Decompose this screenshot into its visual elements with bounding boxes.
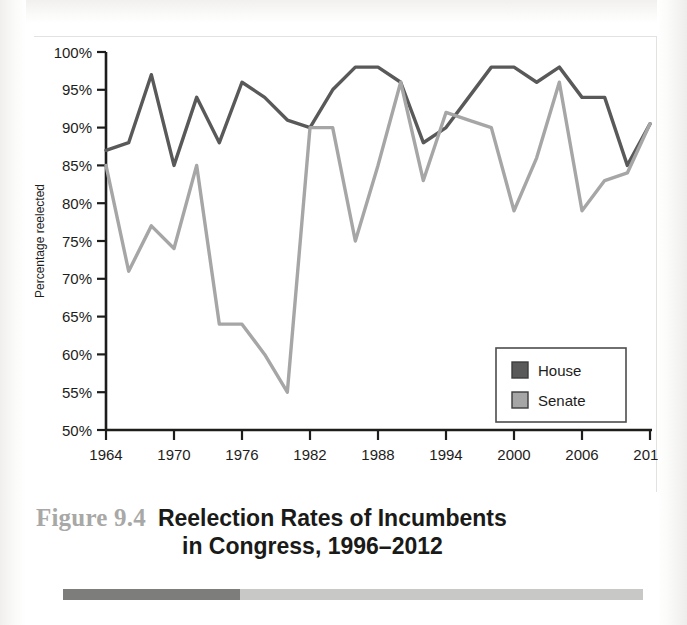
legend-label-senate[interactable]: Senate [538, 392, 586, 409]
y-axis-tick-label: 85% [62, 157, 92, 174]
accent-bar-light-segment [240, 589, 643, 600]
y-axis-title: Percentage reelected [33, 184, 47, 298]
y-axis-tick-label: 90% [62, 119, 92, 136]
page-scan-edge-left [0, 0, 26, 625]
x-axis-tick-label: 1970 [157, 446, 190, 463]
x-axis-tick-label: 2006 [565, 446, 598, 463]
figure-caption: Figure 9.4 Reelection Rates of Incumbent… [36, 504, 656, 560]
x-axis-tick-label: 2012 [633, 446, 658, 463]
page-scan-edge-right [657, 0, 687, 625]
y-axis-tick-label: 100% [54, 44, 92, 61]
series-line-house [106, 67, 650, 165]
decorative-accent-bar [63, 589, 643, 600]
legend-label-house[interactable]: House [538, 362, 581, 379]
caption-first-row: Figure 9.4 Reelection Rates of Incumbent… [36, 504, 656, 532]
page-scan-edge-top [0, 0, 687, 24]
x-axis-tick-label: 1964 [89, 446, 122, 463]
y-axis-tick-label: 55% [62, 384, 92, 401]
figure-container: 50%55%60%65%70%75%80%85%90%95%100% 19641… [0, 0, 687, 625]
x-axis-tick-label: 1976 [225, 446, 258, 463]
x-axis-tick-label: 1988 [361, 446, 394, 463]
figure-number-label: Figure 9.4 [36, 504, 146, 532]
x-axis-tick-label: 1994 [429, 446, 462, 463]
y-axis-tick-label: 80% [62, 195, 92, 212]
chart-svg: 50%55%60%65%70%75%80%85%90%95%100% 19641… [28, 30, 658, 492]
accent-bar-dark-segment [63, 589, 240, 600]
chart-legend[interactable]: HouseSenate [496, 348, 626, 422]
y-axis-tick-label: 65% [62, 308, 92, 325]
y-axis-tick-label: 70% [62, 270, 92, 287]
figure-title-line-2: in Congress, 1996–2012 [182, 532, 656, 560]
x-axis-tick-label: 2000 [497, 446, 530, 463]
legend-box [496, 348, 626, 422]
y-axis-tick-label: 95% [62, 81, 92, 98]
y-axis-title-text: Percentage reelected [33, 184, 47, 298]
chart-series-group [106, 67, 650, 392]
x-axis: 196419701976198219881994200020062012 [89, 430, 658, 463]
x-axis-tick-label: 1982 [293, 446, 326, 463]
figure-title-line-1: Reelection Rates of Incumbents [158, 504, 507, 532]
legend-swatch-senate[interactable] [512, 392, 528, 408]
y-axis-tick-label: 75% [62, 233, 92, 250]
line-chart: 50%55%60%65%70%75%80%85%90%95%100% 19641… [28, 30, 658, 492]
y-axis-tick-label: 50% [62, 422, 92, 439]
legend-swatch-house[interactable] [512, 362, 528, 378]
y-axis-tick-label: 60% [62, 346, 92, 363]
y-axis: 50%55%60%65%70%75%80%85%90%95%100% [54, 44, 106, 439]
